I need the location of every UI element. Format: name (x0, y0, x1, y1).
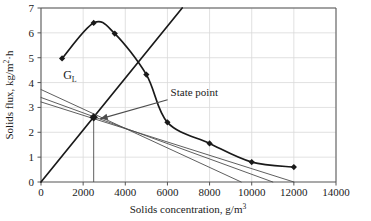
x-tick-labels: 02000400060008000100001200014000 (38, 186, 350, 198)
y-tick-label: 6 (29, 27, 35, 39)
y-tick-label: 4 (29, 77, 35, 89)
y-tick-label: 0 (29, 176, 35, 188)
state-point-label: State point (171, 86, 218, 98)
x-tick-label: 2000 (72, 186, 95, 198)
x-axis-title-main: Solids concentration, g/m (130, 203, 243, 215)
x-tick-label: 0 (38, 186, 44, 198)
y-tick-label: 5 (29, 52, 35, 64)
solids-flux-chart: 02000400060008000100001200014000 0123456… (0, 0, 371, 221)
x-tick-label: 14000 (322, 186, 350, 198)
x-axis-title: Solids concentration, g/m3 (130, 202, 247, 215)
x-tick-label: 12000 (280, 186, 308, 198)
y-tick-label: 1 (29, 151, 35, 163)
gl-label-main: G (63, 68, 72, 82)
x-tick-label: 8000 (199, 186, 222, 198)
y-tick-label: 7 (29, 2, 35, 14)
chart-figure: 02000400060008000100001200014000 0123456… (0, 0, 371, 221)
y-axis-title: Solids flux, kg/m2·h (2, 50, 15, 140)
y-tick-labels: 01234567 (29, 2, 35, 188)
y-axis-title-main: Solids flux, kg/m (3, 63, 15, 140)
x-tick-label: 6000 (156, 186, 179, 198)
y-tick-label: 2 (29, 126, 35, 138)
x-tick-label: 4000 (114, 186, 137, 198)
y-axis-title-tail: ·h (3, 50, 15, 60)
y-tick-label: 3 (29, 101, 35, 113)
gl-label-subscript: L (72, 75, 77, 84)
x-axis-title-exponent: 3 (242, 202, 246, 211)
x-tick-label: 10000 (238, 186, 266, 198)
